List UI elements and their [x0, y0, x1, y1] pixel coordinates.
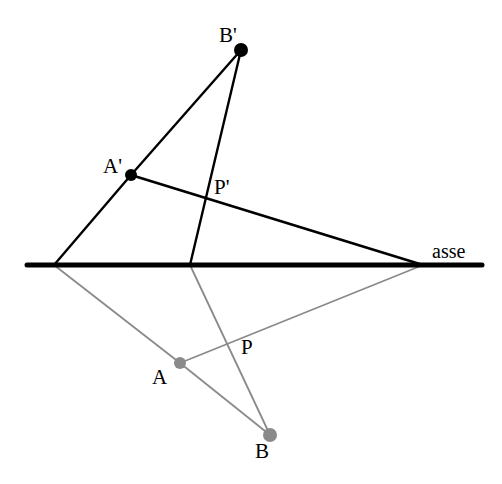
point-label-B: B — [255, 441, 269, 462]
point-label-A: A — [152, 367, 167, 388]
segment-B-to-mid-node — [190, 265, 270, 435]
lower-reflected-figure — [54, 265, 423, 435]
segment-left-node-to-A — [54, 265, 180, 363]
point-marker-A — [174, 357, 186, 369]
point-label-P-prime: P' — [214, 177, 229, 198]
axis-label: asse — [432, 241, 465, 261]
point-marker-A-prime — [125, 169, 137, 181]
point-label-A-prime: A' — [103, 156, 122, 177]
segment-A-to-B — [180, 363, 270, 435]
geometry-figure: A' B' P' A B P asse — [0, 0, 502, 484]
figure-canvas — [0, 0, 502, 484]
point-markers — [125, 43, 277, 442]
segment-left-node-to-A-prime — [54, 175, 131, 265]
segment-B-prime-to-mid-node — [190, 50, 241, 265]
segment-A-prime-to-right-node — [131, 175, 423, 265]
point-label-B-prime: B' — [219, 25, 237, 46]
segment-A-to-right-node — [180, 265, 423, 363]
segment-A-prime-to-B-prime — [131, 50, 241, 175]
point-label-P: P — [241, 337, 253, 358]
